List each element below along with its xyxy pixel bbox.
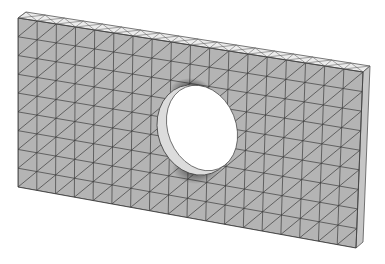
mesh-plate-figure xyxy=(0,0,385,264)
